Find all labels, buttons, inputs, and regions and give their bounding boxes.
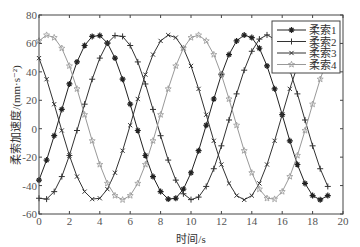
x-tick-label: 0: [36, 215, 42, 227]
x-tick-label: 18: [307, 215, 319, 227]
x-tick-label: 4: [97, 215, 103, 227]
x-tick-label: 20: [338, 215, 350, 227]
y-tick-label: 0: [32, 123, 38, 135]
x-tick-label: 12: [216, 215, 227, 227]
y-tick-label: -20: [22, 151, 37, 163]
chart: 02468101214161820-60-40-20020406080 柔索1柔…: [0, 0, 360, 247]
legend: 柔索1柔索2柔索3柔索4: [272, 21, 340, 73]
x-tick-label: 14: [246, 215, 258, 227]
svg-text:柔索4: 柔索4: [309, 58, 337, 71]
y-tick-label: 20: [26, 94, 38, 106]
x-tick-label: 16: [277, 215, 289, 227]
svg-text:柔索3: 柔索3: [309, 46, 337, 59]
y-tick-label: 40: [26, 66, 38, 78]
x-tick-label: 8: [158, 215, 164, 227]
svg-text:柔索2: 柔索2: [309, 35, 337, 48]
x-tick-label: 10: [186, 215, 198, 227]
y-tick-label: 80: [26, 9, 38, 21]
x-tick-label: 6: [127, 215, 133, 227]
y-tick-label: 60: [26, 37, 38, 49]
x-tick-label: 2: [67, 215, 73, 227]
svg-text:柔索1: 柔索1: [309, 23, 337, 36]
y-tick-label: -60: [22, 208, 37, 220]
x-axis-label: 时间/s: [176, 233, 205, 245]
y-axis-label: 柔索加速度/(mm·s⁻²): [9, 65, 23, 165]
y-tick-label: -40: [22, 180, 37, 192]
